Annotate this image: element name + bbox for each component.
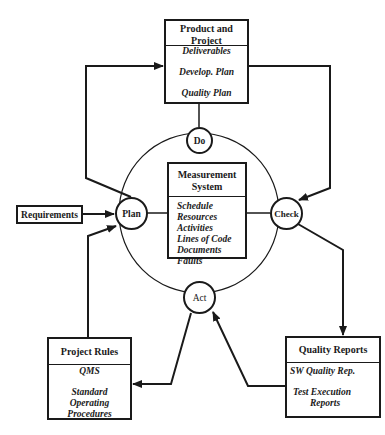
project-rules-items: QMS Standard Operating Procedures [49, 366, 130, 420]
requirements-box: Requirements [16, 205, 83, 224]
measurement-system-box: Measurement System Schedule Resources Ac… [167, 162, 247, 259]
quality-reports-title: Quality Reports [287, 338, 379, 363]
item-test-execution: Test Execution [290, 387, 379, 398]
project-rules-title: Project Rules [49, 339, 130, 365]
product-and-project-box: Product and Project Deliverables Develop… [164, 19, 249, 104]
title-line: Product and [166, 23, 247, 35]
check-node: Check [270, 197, 303, 230]
title-line: System [169, 181, 245, 193]
item-deliverables: Deliverables [166, 46, 247, 57]
act-node: Act [183, 281, 216, 314]
item-quality-plan: Quality Plan [166, 88, 247, 99]
item-resources: Resources [177, 212, 245, 223]
item-standard: Standard [49, 387, 130, 398]
measurement-box-title: Measurement System [169, 164, 245, 197]
item-procedures: Procedures [49, 409, 130, 420]
item-qms: QMS [49, 366, 130, 377]
measurement-box-items: Schedule Resources Activities Lines of C… [169, 197, 245, 267]
item-operating: Operating [49, 398, 130, 409]
item-sw-quality-rep: SW Quality Rep. [290, 366, 379, 377]
quality-reports-box: Quality Reports SW Quality Rep. Test Exe… [285, 336, 381, 418]
quality-reports-items: SW Quality Rep. Test Execution Reports [287, 366, 379, 409]
project-rules-box: Project Rules QMS Standard Operating Pro… [47, 337, 132, 420]
item-schedule: Schedule [177, 201, 245, 212]
item-documents: Documents [177, 245, 245, 256]
item-develop-plan: Develop. Plan [166, 67, 247, 78]
item-activities: Activities [177, 223, 245, 234]
product-box-items: Deliverables Develop. Plan Quality Plan [166, 46, 247, 99]
plan-node: Plan [115, 197, 148, 230]
item-lines-of-code: Lines of Code [177, 234, 245, 245]
do-node: Do [186, 127, 213, 154]
item-faults: Faults [177, 256, 245, 267]
title-line: Measurement [169, 169, 245, 181]
item-reports: Reports [290, 398, 379, 409]
requirements-label: Requirements [21, 210, 78, 220]
product-box-title: Product and Project [166, 21, 247, 46]
